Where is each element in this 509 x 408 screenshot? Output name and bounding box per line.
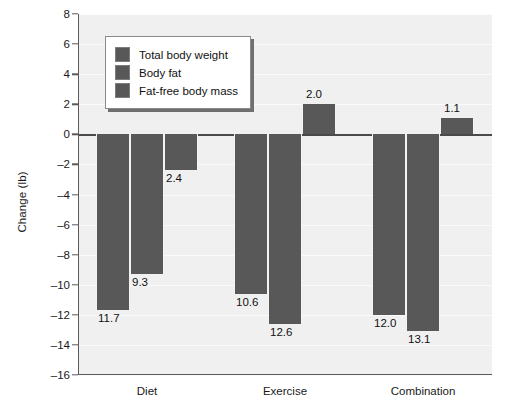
x-axis-category-label: Exercise [263,385,307,397]
legend-label: Total body weight [139,49,228,61]
y-axis-tick-label: 2 [30,98,70,110]
bar-value-label: 2.0 [306,88,322,100]
bar [406,134,440,331]
y-axis-tick-mark [72,13,78,14]
y-axis-tick-mark [72,284,78,285]
bar [164,134,198,170]
legend-item: Fat-free body mass [115,83,238,98]
y-axis-tick-label: 8 [30,8,70,20]
bar [234,134,268,293]
y-axis-tick-mark [72,254,78,255]
gridline [79,14,492,15]
y-axis-tick-mark [72,104,78,105]
chart-legend: Total body weightBody fatFat-free body m… [105,36,251,109]
legend-label: Fat-free body mass [139,85,238,97]
bar [440,118,474,135]
bar [372,134,406,315]
bar-value-label: 10.6 [236,296,258,308]
bar [302,104,336,134]
y-axis-tick-label: –8 [30,249,70,261]
x-axis-category-label: Diet [137,385,157,397]
y-axis-tick-mark [72,314,78,315]
y-axis-tick-mark [72,134,78,135]
legend-swatch-icon [115,47,130,62]
bar-value-label: 1.1 [444,102,460,114]
y-axis-tick-mark [72,43,78,44]
y-axis-tick-label: –16 [30,369,70,381]
y-axis-tick-mark [72,344,78,345]
y-axis-tick-mark [72,73,78,74]
bar-value-label: 12.0 [374,317,396,329]
y-axis-tick-label: –12 [30,309,70,321]
bar-value-label: 13.1 [408,333,430,345]
x-axis-category-label: Combination [391,385,456,397]
bar [268,134,302,324]
legend-item: Total body weight [115,47,238,62]
y-axis-tick-label: –6 [30,219,70,231]
bar-chart: Change (lb) 86420–2–4–6–8–10–12–14–16 11… [0,0,509,408]
y-axis-tick-label: –4 [30,189,70,201]
y-axis-tick-label: 0 [30,128,70,140]
y-axis-tick-label: –10 [30,279,70,291]
bar [96,134,130,310]
legend-label: Body fat [139,67,181,79]
bar-value-label: 9.3 [132,276,148,288]
y-axis-tick-mark [72,164,78,165]
y-axis-tick-mark [72,224,78,225]
gridline [79,375,492,376]
y-axis-tick-label: 4 [30,68,70,80]
bar [130,134,164,274]
legend-swatch-icon [115,65,130,80]
legend-swatch-icon [115,83,130,98]
y-axis-tick-label: –2 [30,158,70,170]
bar-value-label: 11.7 [98,312,120,324]
y-axis-tick-label: 6 [30,38,70,50]
y-axis-title: Change (lb) [16,142,28,262]
bar-value-label: 12.6 [270,326,292,338]
bar-value-label: 2.4 [166,172,182,184]
y-axis-tick-mark [72,374,78,375]
y-axis-tick-label: –14 [30,339,70,351]
y-axis-tick-mark [72,194,78,195]
legend-item: Body fat [115,65,238,80]
